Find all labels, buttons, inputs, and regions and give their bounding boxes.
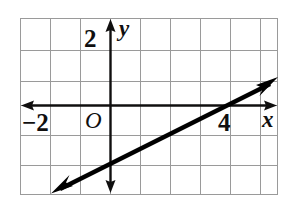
y-axis-tick-label-2: 2	[84, 26, 97, 51]
figure-background	[0, 0, 294, 204]
coordinate-plane-figure: 2 y −2 O 4 x	[0, 0, 294, 204]
x-axis-name-label: x	[262, 108, 274, 131]
graph-canvas	[0, 0, 294, 204]
x-axis-tick-label-negative-2: −2	[22, 110, 49, 135]
x-axis-tick-label-4: 4	[218, 110, 231, 135]
origin-label: O	[85, 109, 102, 132]
y-axis-name-label: y	[119, 17, 129, 40]
